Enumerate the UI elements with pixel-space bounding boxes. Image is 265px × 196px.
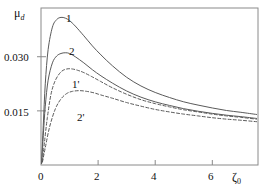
curve-2-prime (42, 91, 256, 162)
curve-1 (42, 17, 257, 163)
plot-area (0, 0, 265, 196)
curve-label-1: 1 (66, 12, 72, 24)
x-tick-label-4: 4 (151, 170, 157, 182)
x-tick-label-6: 6 (208, 170, 214, 182)
y-tick-label-0015: 0.015 (4, 106, 29, 118)
curve-label-2: 2 (69, 45, 75, 57)
y-axis-title: μd (14, 6, 24, 22)
chart-figure: μd ζ0 0.030 0.015 0 2 4 6 1 2 1' 2' (0, 0, 265, 196)
y-axis-title-sub: d (20, 13, 24, 22)
y-tick-label-0030: 0.030 (4, 51, 29, 63)
x-tick-label-0: 0 (38, 170, 44, 182)
curve-label-1-prime: 1' (72, 78, 79, 90)
x-axis-title-sub: 0 (237, 177, 241, 186)
x-axis-ticks (98, 160, 212, 165)
x-axis-title: ζ0 (232, 170, 241, 186)
x-tick-label-2: 2 (94, 170, 100, 182)
curve-label-2-prime: 2' (77, 111, 84, 123)
curve-group (42, 17, 257, 163)
